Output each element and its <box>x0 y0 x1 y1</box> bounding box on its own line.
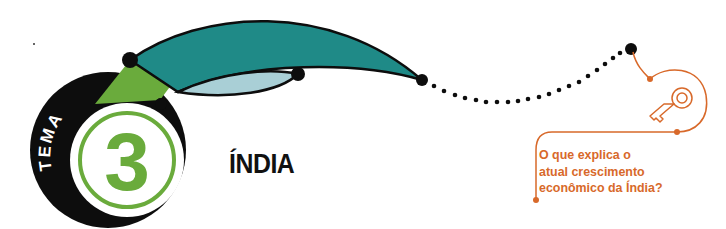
tema-label: TEMA <box>35 109 67 172</box>
question-line: econômico da Índia? <box>539 180 705 197</box>
guiding-question: O que explica o atual crescimento econôm… <box>539 147 705 197</box>
theme-number: 3 <box>104 116 150 207</box>
question-line: O que explica o <box>539 147 705 164</box>
page-title: ÍNDIA <box>229 149 294 180</box>
svg-text:TEMA: TEMA <box>35 109 67 172</box>
question-line: atual crescimento <box>539 164 705 181</box>
